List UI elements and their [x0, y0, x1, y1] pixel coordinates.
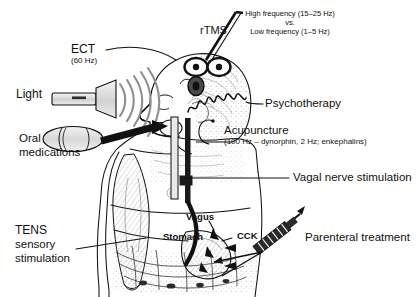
leader-cck — [222, 238, 232, 241]
label-light: Light — [16, 88, 42, 101]
oral-route-arrow — [101, 120, 168, 141]
label-tens-line2: sensory — [15, 238, 55, 251]
label-stomach: Stomach — [163, 232, 203, 243]
label-cck: CCK — [237, 231, 258, 242]
label-ect: ECT — [71, 43, 95, 56]
label-acupuncture: Acupuncture — [224, 124, 289, 137]
label-psychotherapy: Psychotherapy — [265, 97, 341, 110]
label-ect-frequency: (60 Hz) — [71, 57, 97, 66]
label-rtms: rTMS — [200, 24, 227, 36]
treatment-modalities-diagram: rTMS High frequency (15–25 Hz) vs. Low f… — [0, 0, 419, 297]
label-oral-line1: Oral — [19, 132, 41, 145]
light-lamp — [52, 68, 159, 136]
label-tens-line1: TENS — [15, 224, 47, 237]
label-acupuncture-note: (100 Hz – dynorphin, 2 Hz; enkephalins) — [224, 138, 367, 147]
label-vagus: Vagus — [186, 212, 214, 223]
label-rtms-note-line3: Low frequency (1–5 Hz) — [230, 28, 350, 36]
leader-ect — [106, 47, 176, 60]
label-tens-line3: stimulation — [15, 252, 70, 265]
label-parenteral-treatment: Parenteral treatment — [305, 231, 410, 244]
label-oral-line2: medications — [19, 146, 80, 159]
label-vagal-nerve-stimulation: Vagal nerve stimulation — [293, 171, 412, 184]
acupuncture-point — [211, 119, 214, 122]
